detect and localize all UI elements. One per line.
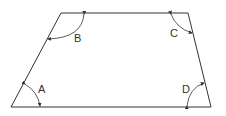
angle-label-c: C [170,27,178,39]
angle-label-d: D [182,83,190,95]
angle-label-b: B [74,32,81,44]
angle-label-a: A [38,83,46,95]
trapezoid-diagram: A B C D [0,0,226,116]
